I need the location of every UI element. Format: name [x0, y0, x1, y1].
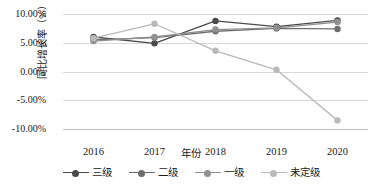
- legend-label: 二级: [158, 167, 178, 178]
- y-axis-tick-label: 5.00%: [0, 38, 46, 48]
- y-axis-tick-label: 10.00%: [0, 9, 46, 19]
- legend-label: 三级: [92, 167, 112, 178]
- y-axis-tick-label: 0.00%: [0, 67, 46, 77]
- data-point: [334, 26, 340, 32]
- data-point: [334, 117, 340, 123]
- y-axis-tick-label: -10.00%: [0, 124, 46, 134]
- plot-area: 10.00%5.00%0.00%-5.00%-10.00% 2016201720…: [63, 14, 368, 129]
- legend-label: 一级: [224, 167, 244, 178]
- data-point: [151, 21, 157, 27]
- x-axis-title: 年份: [0, 148, 382, 159]
- legend-item[interactable]: 三级: [63, 167, 112, 178]
- legend-item[interactable]: 一级: [195, 167, 244, 178]
- data-point: [212, 18, 218, 24]
- y-axis-tick-label: -5.00%: [0, 95, 46, 105]
- data-point: [151, 34, 157, 40]
- legend-marker-icon: [129, 168, 155, 177]
- series-layer: [63, 14, 368, 129]
- line-chart: 同比增长率（%） 10.00%5.00%0.00%-5.00%-10.00% 2…: [0, 0, 382, 191]
- legend-item[interactable]: 未定级: [261, 167, 320, 178]
- data-point: [212, 26, 218, 32]
- data-point: [334, 19, 340, 25]
- data-point: [273, 25, 279, 31]
- data-point: [151, 40, 157, 46]
- data-point: [273, 67, 279, 73]
- legend-marker-icon: [63, 168, 89, 177]
- legend-item[interactable]: 二级: [129, 167, 178, 178]
- legend-marker-icon: [195, 168, 221, 177]
- legend-marker-icon: [261, 168, 287, 177]
- legend: 三级二级一级未定级: [0, 167, 382, 178]
- data-point: [212, 48, 218, 54]
- legend-label: 未定级: [290, 167, 320, 178]
- x-axis-line: [63, 129, 368, 130]
- data-point: [90, 35, 96, 41]
